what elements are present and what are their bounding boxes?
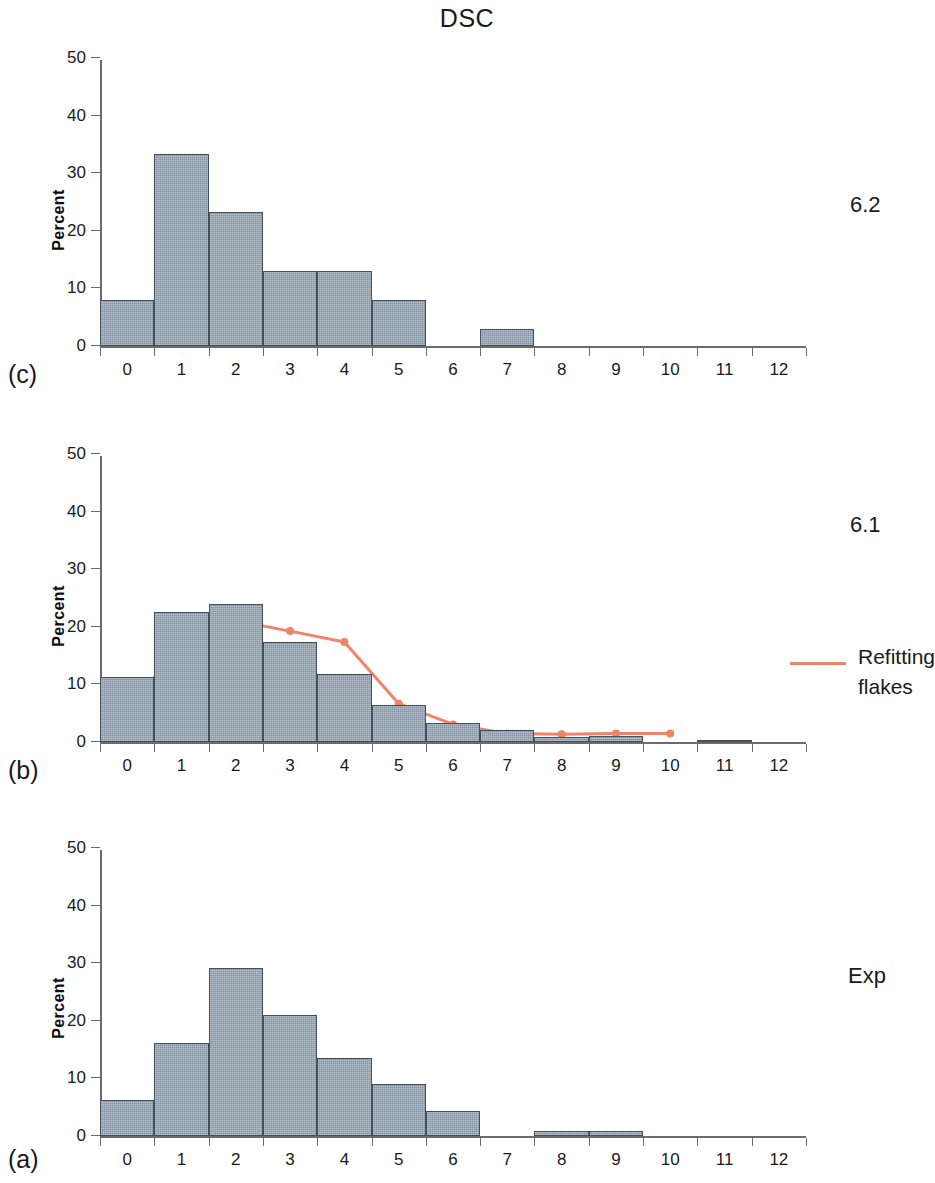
y-tick-label: 30 bbox=[67, 559, 86, 579]
histogram-bar bbox=[317, 1058, 371, 1136]
x-tick bbox=[806, 348, 807, 356]
x-tick-label: 9 bbox=[611, 1150, 620, 1170]
panel-b: Percent 010203040500123456789101112 bbox=[0, 438, 934, 793]
x-tick bbox=[317, 348, 318, 356]
x-tick-label: 7 bbox=[503, 1150, 512, 1170]
histogram-bar bbox=[154, 1043, 208, 1136]
y-tick-label: 0 bbox=[77, 732, 86, 752]
y-tick bbox=[91, 230, 100, 231]
histogram-bar bbox=[534, 737, 588, 742]
x-tick-label: 10 bbox=[661, 360, 680, 380]
y-tick bbox=[91, 962, 100, 963]
x-axis-a bbox=[100, 1136, 806, 1138]
histogram-bar bbox=[263, 1015, 317, 1136]
histogram-bar bbox=[154, 612, 208, 742]
y-tick-label: 40 bbox=[67, 896, 86, 916]
x-tick-label: 6 bbox=[448, 360, 457, 380]
x-tick bbox=[426, 1138, 427, 1146]
x-tick bbox=[697, 1138, 698, 1146]
histogram-bar bbox=[426, 723, 480, 742]
legend-label-line1: Refitting bbox=[858, 642, 935, 672]
histogram-bar bbox=[263, 642, 317, 742]
y-tick bbox=[91, 511, 100, 512]
side-label-b: 6.1 bbox=[850, 512, 881, 538]
x-tick-label: 3 bbox=[285, 756, 294, 776]
y-tick bbox=[91, 905, 100, 906]
y-tick bbox=[91, 1020, 100, 1021]
x-tick-label: 8 bbox=[557, 1150, 566, 1170]
y-axis-a bbox=[100, 850, 102, 1138]
y-tick-label: 30 bbox=[67, 953, 86, 973]
histogram-bar bbox=[426, 1111, 480, 1136]
panel-label-a: (a) bbox=[8, 1145, 39, 1174]
y-tick-label: 30 bbox=[67, 163, 86, 183]
y-tick-label: 0 bbox=[77, 336, 86, 356]
x-tick-label: 7 bbox=[503, 756, 512, 776]
x-tick bbox=[154, 744, 155, 752]
y-tick-label: 10 bbox=[67, 674, 86, 694]
x-tick-label: 0 bbox=[122, 1150, 131, 1170]
y-tick bbox=[91, 741, 100, 742]
x-tick-label: 12 bbox=[769, 360, 788, 380]
histogram-bar bbox=[317, 674, 371, 742]
x-tick bbox=[752, 348, 753, 356]
x-tick-label: 10 bbox=[661, 1150, 680, 1170]
x-tick bbox=[426, 348, 427, 356]
x-tick bbox=[263, 348, 264, 356]
histogram-bar bbox=[589, 736, 643, 742]
x-tick bbox=[697, 744, 698, 752]
x-tick-label: 4 bbox=[340, 360, 349, 380]
x-tick-label: 3 bbox=[285, 1150, 294, 1170]
x-tick-label: 2 bbox=[231, 756, 240, 776]
x-tick bbox=[589, 744, 590, 752]
x-tick bbox=[643, 348, 644, 356]
x-tick bbox=[372, 348, 373, 356]
x-tick-label: 9 bbox=[611, 360, 620, 380]
x-tick bbox=[372, 744, 373, 752]
y-tick-label: 0 bbox=[77, 1126, 86, 1146]
x-tick-label: 4 bbox=[340, 756, 349, 776]
x-tick-label: 1 bbox=[177, 360, 186, 380]
x-tick-label: 6 bbox=[448, 756, 457, 776]
x-tick bbox=[589, 348, 590, 356]
y-tick bbox=[91, 172, 100, 173]
x-tick bbox=[209, 744, 210, 752]
x-tick-label: 5 bbox=[394, 1150, 403, 1170]
x-tick-label: 3 bbox=[285, 360, 294, 380]
y-tick-label: 10 bbox=[67, 278, 86, 298]
y-tick bbox=[91, 1135, 100, 1136]
plot-area-a: 010203040500123456789101112 bbox=[100, 850, 806, 1138]
x-tick-label: 11 bbox=[716, 360, 734, 380]
y-tick bbox=[91, 626, 100, 627]
side-label-a: Exp bbox=[848, 963, 886, 989]
x-tick bbox=[643, 1138, 644, 1146]
x-axis-b bbox=[100, 742, 806, 744]
x-tick-label: 12 bbox=[769, 756, 788, 776]
x-tick bbox=[589, 1138, 590, 1146]
x-tick bbox=[100, 1138, 101, 1146]
panel-a: Percent 010203040500123456789101112 bbox=[0, 832, 934, 1183]
x-tick-label: 10 bbox=[661, 756, 680, 776]
y-tick-label: 50 bbox=[67, 444, 86, 464]
x-tick-label: 9 bbox=[611, 756, 620, 776]
x-tick-label: 1 bbox=[177, 756, 186, 776]
y-tick bbox=[91, 57, 100, 58]
x-tick bbox=[480, 348, 481, 356]
x-tick-label: 1 bbox=[177, 1150, 186, 1170]
y-tick bbox=[91, 847, 100, 848]
y-tick-label: 20 bbox=[67, 617, 86, 637]
x-tick bbox=[317, 744, 318, 752]
x-tick bbox=[534, 744, 535, 752]
line-marker bbox=[340, 638, 348, 646]
histogram-bar bbox=[480, 329, 534, 346]
x-tick bbox=[480, 1138, 481, 1146]
legend-label-line2: flakes bbox=[858, 672, 935, 702]
x-tick-label: 11 bbox=[716, 756, 734, 776]
y-tick-label: 40 bbox=[67, 502, 86, 522]
y-tick bbox=[91, 115, 100, 116]
x-tick bbox=[534, 348, 535, 356]
plot-area-c: 010203040500123456789101112 bbox=[100, 60, 806, 348]
x-tick bbox=[317, 1138, 318, 1146]
plot-area-b: 010203040500123456789101112 bbox=[100, 456, 806, 744]
